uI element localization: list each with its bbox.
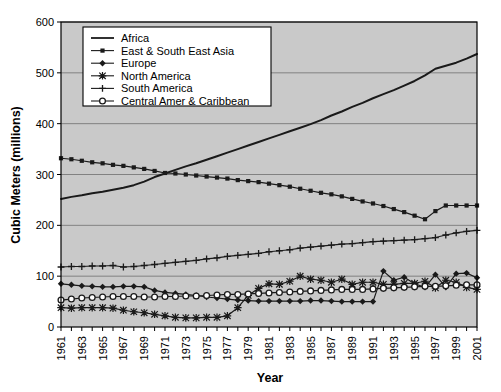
data-point-marker [172, 314, 180, 322]
data-point-marker [256, 291, 262, 297]
data-point-marker [288, 185, 292, 189]
x-tick-label: 1979 [242, 336, 254, 360]
data-point-marker [245, 291, 251, 297]
data-point-marker [101, 161, 105, 165]
data-point-marker [443, 283, 449, 289]
data-point-marker [298, 187, 302, 191]
y-axis-title: Cubic Meters (millions) [9, 106, 23, 244]
data-point-marker [225, 176, 229, 180]
x-tick-label: 1963 [76, 336, 88, 360]
data-point-marker [173, 294, 179, 300]
legend-label: Central Amer & Caribbean [121, 95, 249, 107]
x-tick-label: 1985 [305, 336, 317, 360]
data-point-marker [203, 314, 211, 322]
data-point-marker [329, 287, 335, 293]
x-tick-label: 1993 [388, 336, 400, 360]
data-point-marker [465, 203, 469, 207]
data-point-marker [215, 175, 219, 179]
x-tick-label: 1991 [367, 336, 379, 360]
line-chart: 0100200300400500600 19611963196519671969… [0, 0, 501, 392]
data-point-marker [182, 314, 190, 322]
data-point-marker [339, 286, 345, 292]
data-point-marker [162, 294, 168, 300]
x-tick-label: 1973 [180, 336, 192, 360]
data-point-marker [69, 296, 75, 302]
data-point-marker [412, 284, 418, 290]
data-point-marker [141, 294, 147, 300]
data-point-marker [78, 304, 86, 312]
data-point-marker [163, 171, 167, 175]
data-point-marker [267, 182, 271, 186]
data-point-marker [121, 294, 127, 300]
data-point-marker [370, 286, 376, 292]
data-point-marker [224, 312, 232, 320]
data-point-marker [194, 173, 198, 177]
data-point-marker [433, 283, 439, 289]
data-point-marker [205, 174, 209, 178]
x-tick-label: 1969 [138, 336, 150, 360]
data-point-marker [359, 278, 367, 286]
data-point-marker [296, 272, 304, 280]
data-point-marker [433, 209, 437, 213]
data-point-marker [350, 197, 354, 201]
data-point-marker [235, 292, 241, 298]
data-point-marker [192, 314, 200, 322]
data-point-marker [68, 304, 76, 312]
x-tick-label: 1971 [159, 336, 171, 360]
y-tick-label: 500 [36, 67, 54, 79]
data-point-marker [121, 164, 125, 168]
x-tick-label: 1997 [429, 336, 441, 360]
data-point-marker [151, 310, 159, 318]
x-axis-title: Year [257, 371, 284, 385]
data-point-marker [153, 169, 157, 173]
y-tick-label: 400 [36, 118, 54, 130]
data-point-marker [381, 285, 387, 291]
data-point-marker [277, 290, 283, 296]
data-point-marker [464, 282, 470, 288]
y-tick-label: 200 [36, 219, 54, 231]
data-point-marker [100, 98, 106, 104]
y-tick-label: 100 [36, 270, 54, 282]
data-point-marker [413, 214, 417, 218]
data-point-marker [99, 304, 107, 312]
data-point-marker [422, 283, 428, 289]
x-tick-label: 1977 [221, 336, 233, 360]
x-tick-label: 1965 [97, 336, 109, 360]
data-point-marker [319, 191, 323, 195]
data-point-marker [100, 294, 106, 300]
chart-container: 0100200300400500600 19611963196519671969… [0, 0, 501, 392]
data-point-marker [109, 304, 117, 312]
data-point-marker [329, 192, 333, 196]
y-tick-label: 300 [36, 169, 54, 181]
data-point-marker [361, 199, 365, 203]
data-point-marker [392, 207, 396, 211]
data-point-marker [276, 281, 284, 289]
legend-label: South America [121, 82, 193, 94]
data-point-marker [309, 189, 313, 193]
data-point-marker [204, 293, 210, 299]
data-point-marker [214, 292, 220, 298]
data-point-marker [100, 49, 104, 53]
data-point-marker [287, 289, 293, 295]
data-point-marker [360, 286, 366, 292]
data-point-marker [79, 295, 85, 301]
x-tick-label: 1989 [346, 336, 358, 360]
data-point-marker [340, 194, 344, 198]
data-point-marker [69, 157, 73, 161]
data-point-marker [297, 289, 303, 295]
data-point-marker [183, 293, 189, 299]
data-point-marker [349, 286, 355, 292]
data-point-marker [338, 275, 346, 283]
data-point-marker [371, 201, 375, 205]
data-point-marker [369, 278, 377, 286]
data-point-marker [402, 210, 406, 214]
data-point-marker [381, 204, 385, 208]
data-point-marker [161, 312, 169, 320]
data-point-marker [89, 295, 95, 301]
data-point-marker [152, 294, 158, 300]
x-tick-label: 1995 [409, 336, 421, 360]
data-point-marker [80, 159, 84, 163]
legend-label: North America [121, 70, 192, 82]
data-point-marker [88, 304, 96, 312]
x-tick-label: 1983 [284, 336, 296, 360]
